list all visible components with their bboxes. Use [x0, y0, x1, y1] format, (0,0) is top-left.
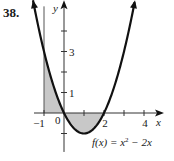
x-tick-label: −1	[33, 117, 45, 129]
x-tick-label: 2	[102, 117, 108, 129]
function-label-prefix: f(x) = x	[92, 136, 125, 149]
curve-left-arrow-icon	[31, 0, 38, 9]
x-axis-label: x	[155, 116, 161, 128]
origin-label: 0	[55, 114, 61, 126]
chart: 38. −124130xy f(x) = x2 − 2x	[0, 0, 174, 161]
problem-number: 38.	[3, 5, 19, 20]
y-tick-label: 1	[69, 87, 75, 99]
y-tick-label: 3	[69, 46, 75, 58]
function-label-suffix: − 2x	[129, 136, 152, 148]
y-axis-label: y	[52, 2, 58, 14]
curve-right-arrow-icon	[130, 0, 137, 9]
function-label: f(x) = x2 − 2x	[92, 136, 152, 149]
x-tick-label: 4	[142, 117, 148, 129]
axes-group	[34, 0, 164, 152]
